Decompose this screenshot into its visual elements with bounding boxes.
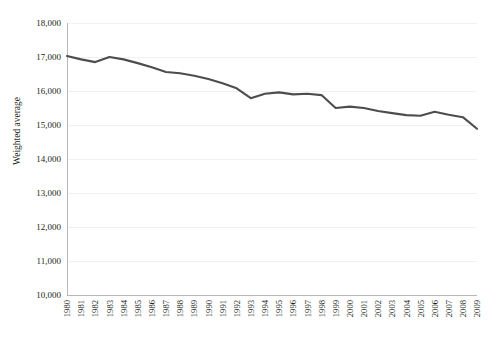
y-tick-label: 16,000 (36, 86, 61, 96)
x-tick-label: 2002 (373, 300, 383, 317)
y-tick-label: 12,000 (36, 222, 61, 232)
x-tick-label: 1991 (218, 300, 228, 317)
x-tick-label: 2004 (402, 299, 412, 317)
x-tick-label: 2003 (387, 300, 397, 317)
gridlines-group (67, 24, 477, 262)
y-tick-label: 18,000 (36, 18, 61, 28)
y-tick-label: 13,000 (36, 188, 61, 198)
data-line-weighted-average (67, 56, 477, 129)
x-tick-label: 1984 (119, 299, 129, 317)
x-tick-label: 2007 (444, 299, 454, 317)
y-axis-title: Weighted average (12, 97, 22, 165)
y-tick-label: 11,000 (37, 256, 62, 266)
x-tick-label: 1996 (288, 299, 298, 317)
x-tick-label: 1989 (189, 300, 199, 317)
x-tick-label: 2005 (416, 300, 426, 317)
x-tick-label: 1982 (90, 300, 100, 317)
x-tick-label: 1997 (303, 299, 313, 317)
x-tick-label: 2000 (345, 300, 355, 317)
y-tick-label: 17,000 (36, 52, 61, 62)
x-tick-label: 1983 (105, 300, 115, 317)
x-tick-label: 1988 (175, 300, 185, 317)
data-series-group (67, 56, 477, 129)
x-tick-label: 2001 (359, 300, 369, 317)
line-chart: 10,00011,00012,00013,00014,00015,00016,0… (0, 0, 499, 338)
x-tick-label: 1981 (76, 300, 86, 317)
y-axis-title-text: Weighted average (12, 97, 22, 165)
x-tick-label: 1995 (274, 300, 284, 317)
x-tick-label: 2009 (472, 300, 482, 317)
y-tick-label: 10,000 (36, 290, 61, 300)
x-tick-label: 2006 (430, 299, 440, 317)
x-tick-label: 2008 (458, 300, 468, 317)
y-tick-labels: 10,00011,00012,00013,00014,00015,00016,0… (36, 18, 61, 300)
x-tick-label: 1990 (204, 300, 214, 317)
x-tick-label: 1985 (133, 300, 143, 317)
x-tick-label: 1998 (317, 300, 327, 317)
x-tick-label: 1980 (62, 300, 72, 317)
x-tick-label: 1986 (147, 299, 157, 317)
y-tick-label: 15,000 (36, 120, 61, 130)
x-tick-label: 1992 (232, 300, 242, 317)
x-tick-label: 1993 (246, 300, 256, 317)
x-tick-labels: 1980198119821983198419851986198719881989… (62, 299, 482, 317)
x-tick-label: 1994 (260, 299, 270, 317)
x-tick-label: 1987 (161, 299, 171, 317)
x-tick-label: 1999 (331, 300, 341, 317)
chart-container: 10,00011,00012,00013,00014,00015,00016,0… (0, 0, 499, 338)
y-tick-label: 14,000 (36, 154, 61, 164)
